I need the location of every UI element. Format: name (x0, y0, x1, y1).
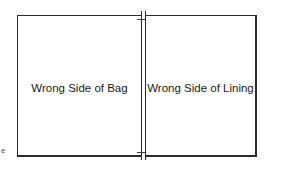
lining-panel: Wrong Side of Lining (146, 15, 257, 157)
cropped-text-fragment: e (1, 148, 4, 154)
sewing-diagram: Wrong Side of Bag Wrong Side of Lining e (0, 0, 284, 174)
bag-panel: Wrong Side of Bag (17, 15, 141, 157)
bag-panel-label: Wrong Side of Bag (31, 82, 127, 94)
lining-panel-label: Wrong Side of Lining (147, 82, 254, 94)
